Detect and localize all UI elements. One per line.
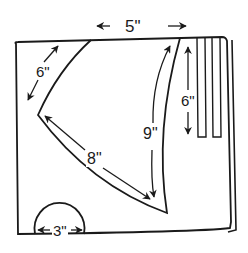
dimension-semicircle-diameter: 3" [52,223,68,238]
dimension-left-edge: 6" [35,64,51,79]
pattern-layout-diagram [0,0,248,253]
dimension-bottom-edge: 8" [86,151,103,167]
dimension-top-width: 5" [124,18,142,35]
dimension-strip-length: 6" [180,93,196,108]
dimension-right-edge: 9" [142,126,159,142]
